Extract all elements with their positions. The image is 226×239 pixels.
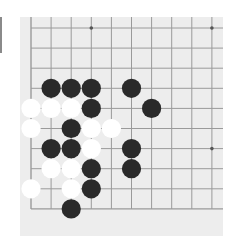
- black-stone[interactable]: [122, 79, 141, 98]
- black-stone[interactable]: [62, 79, 81, 98]
- white-stone[interactable]: [42, 99, 61, 118]
- white-stone[interactable]: [21, 99, 40, 118]
- black-stone[interactable]: [122, 139, 141, 158]
- black-stone[interactable]: [82, 159, 101, 178]
- white-stone[interactable]: [82, 139, 101, 158]
- white-stone[interactable]: [21, 119, 40, 138]
- black-stone[interactable]: [42, 139, 61, 158]
- star-point: [210, 147, 214, 151]
- black-stone[interactable]: [82, 179, 101, 198]
- white-stone[interactable]: [82, 119, 101, 138]
- black-stone[interactable]: [82, 99, 101, 118]
- black-stone[interactable]: [62, 199, 81, 218]
- white-stone[interactable]: [62, 159, 81, 178]
- star-point: [90, 26, 94, 30]
- black-stone[interactable]: [62, 139, 81, 158]
- white-stone[interactable]: [21, 179, 40, 198]
- white-stone[interactable]: [42, 159, 61, 178]
- white-stone[interactable]: [62, 179, 81, 198]
- white-stone[interactable]: [62, 99, 81, 118]
- black-stone[interactable]: [42, 79, 61, 98]
- black-stone[interactable]: [62, 119, 81, 138]
- go-board-grid[interactable]: [0, 0, 226, 239]
- black-stone[interactable]: [142, 99, 161, 118]
- star-point: [210, 26, 214, 30]
- black-stone[interactable]: [82, 79, 101, 98]
- white-stone[interactable]: [102, 119, 121, 138]
- black-stone[interactable]: [122, 159, 141, 178]
